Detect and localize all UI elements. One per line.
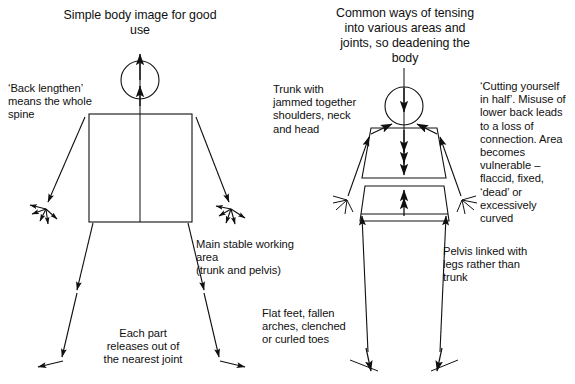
label-pelvis-linked-with-legs: Pelvis linked with legs rather than trun… [443, 245, 563, 285]
right-figure-left-hand-lines [333, 196, 353, 214]
right-shoulder-arrow-right [417, 124, 437, 134]
label-flat-feet-fallen-arches: Flat feet, fallen arches, clenched or cu… [262, 307, 382, 347]
left-hand-release-burst [30, 205, 57, 224]
body-image-diagram: Simple body image for good use ‘Back len… [0, 0, 575, 384]
left-leg-left-upper [77, 223, 93, 290]
label-each-part-releases: Each part releases out of the nearest jo… [88, 327, 198, 367]
label-back-lengthen: ‘Back lengthen’ means the whole spine [8, 82, 123, 122]
left-arm-left [48, 117, 85, 202]
left-leg-right-lower [204, 293, 219, 357]
label-cutting-yourself-in-half: ‘Cutting yourself in half’. Misuse of lo… [480, 80, 575, 225]
right-panel-title: Common ways of tensing into various area… [310, 6, 500, 66]
right-foot-right-sole [431, 360, 458, 371]
label-trunk-with-jammed: Trunk with jammed together shoulders, ne… [273, 83, 388, 136]
label-main-stable-working-area: Main stable working area (trunk and pelv… [196, 238, 316, 278]
right-arm-right [440, 137, 461, 196]
right-hand-release-burst [216, 206, 245, 224]
left-foot-left [38, 361, 63, 367]
right-arm-left [348, 137, 369, 196]
left-arm-right [196, 117, 229, 202]
left-foot-right [220, 361, 245, 367]
left-leg-left-lower [62, 293, 77, 357]
left-panel-title: Simple body image for good use [45, 8, 235, 38]
right-foot-left-sole [350, 360, 378, 371]
right-figure-right-hand-lines [457, 196, 477, 214]
